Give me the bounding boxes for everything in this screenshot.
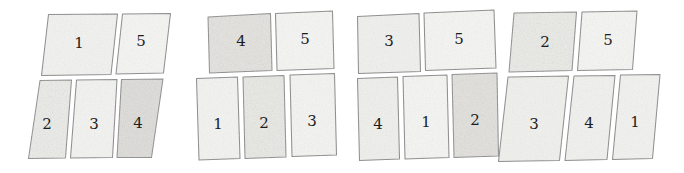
panel-4-cell-2: 2 <box>509 12 577 72</box>
panel-2-cell-1: 1 <box>197 77 241 160</box>
cell-label: 3 <box>307 112 317 130</box>
cell-label: 1 <box>74 34 84 52</box>
cell-label: 3 <box>89 115 99 133</box>
panel-4-cell-3: 3 <box>499 76 569 162</box>
cell-label: 2 <box>42 115 52 133</box>
cell-label: 4 <box>236 32 246 50</box>
panel-4-cell-4: 4 <box>565 76 615 161</box>
panel-1-cell-4: 4 <box>117 79 163 158</box>
cell-label: 4 <box>133 114 143 132</box>
cell-label: 4 <box>584 114 594 132</box>
panel-4-cell-1: 1 <box>613 75 661 160</box>
cell-label: 4 <box>373 115 383 133</box>
panel-3-cell-4: 4 <box>358 77 400 161</box>
cell-label: 5 <box>603 31 613 49</box>
panel-2-cell-3: 3 <box>290 74 337 157</box>
cell-label: 1 <box>630 113 640 131</box>
cell-label: 3 <box>529 115 539 133</box>
panel-1-cell-5: 5 <box>116 14 171 75</box>
panel-1: 1 5 2 3 4 <box>29 14 171 159</box>
panel-3: 3 5 4 1 2 <box>358 10 499 161</box>
panel-4: 2 5 3 4 1 <box>499 11 661 162</box>
sketch-figure: 1 5 2 3 4 4 <box>0 0 684 173</box>
panel-1-cell-2: 2 <box>29 80 72 159</box>
cell-label: 5 <box>300 30 310 48</box>
cell-label: 5 <box>136 32 146 50</box>
figure-canvas: 1 5 2 3 4 4 <box>0 0 684 173</box>
panel-2-cell-4: 4 <box>208 14 272 74</box>
panel-2-cell-2: 2 <box>243 76 286 159</box>
panel-2-cell-5: 5 <box>276 11 335 71</box>
panel-3-cell-1: 1 <box>403 75 449 159</box>
cell-label: 2 <box>259 114 269 132</box>
cell-label: 2 <box>470 111 480 129</box>
cell-label: 3 <box>384 32 394 50</box>
cell-label: 1 <box>421 113 431 131</box>
panel-3-cell-2: 2 <box>452 73 499 158</box>
panel-3-cell-3: 3 <box>358 14 421 74</box>
panel-1-cell-1: 1 <box>42 14 118 76</box>
panel-3-cell-5: 5 <box>424 10 496 71</box>
cell-label: 1 <box>213 115 223 133</box>
panel-1-cell-3: 3 <box>71 80 118 159</box>
panel-2: 4 5 1 2 3 <box>197 11 337 160</box>
cell-label: 5 <box>454 30 464 48</box>
panel-4-cell-5: 5 <box>578 11 638 71</box>
cell-label: 2 <box>540 33 550 51</box>
